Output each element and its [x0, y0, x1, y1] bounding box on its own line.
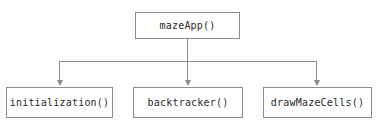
node-label: mazeApp() — [160, 21, 216, 31]
down-arrow-icon — [57, 80, 63, 86]
node-label: drawMazeCells() — [271, 98, 364, 108]
connector-trunk — [187, 39, 188, 62]
node-label: backtracker() — [148, 98, 229, 108]
node-draw-maze-cells[interactable]: drawMazeCells() — [263, 87, 372, 118]
connector-drop-initialization — [59, 62, 60, 81]
down-arrow-icon — [314, 80, 320, 86]
node-maze-app[interactable]: mazeApp() — [135, 12, 240, 39]
node-initialization[interactable]: initialization() — [6, 87, 113, 118]
connector-bus — [59, 61, 317, 62]
connector-drop-draw-maze-cells — [316, 62, 317, 81]
down-arrow-icon — [185, 80, 191, 86]
node-backtracker[interactable]: backtracker() — [133, 87, 243, 118]
diagram-canvas: mazeApp() initialization() backtracker()… — [0, 0, 377, 122]
connector-drop-backtracker — [187, 62, 188, 81]
node-label: initialization() — [10, 98, 110, 108]
